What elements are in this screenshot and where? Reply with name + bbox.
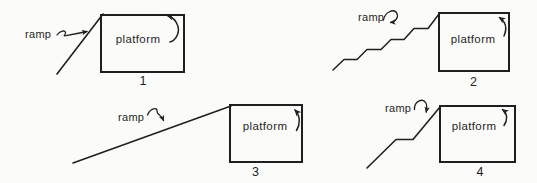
diagram-4: ramp platform 4 [367,100,515,179]
figure-canvas: ramp platform 1 ramp platform 2 ramp pla… [0,0,537,183]
platform-label: platform [452,120,497,132]
ramp-label: ramp [25,28,51,40]
ramp-pointer-curl-arrow-icon [384,11,398,23]
diagram-number: 2 [470,75,477,89]
ramp-label: ramp [358,11,384,23]
diagram-3: ramp platform 3 [73,105,302,179]
diagram-number: 3 [252,165,259,179]
rotation-arrow-icon [500,18,506,37]
ramp-line [57,14,103,74]
rotation-arrow-icon [503,110,507,126]
platform-box [440,106,515,162]
ramp-label: ramp [385,102,411,114]
diagram-1: ramp platform 1 [25,14,184,88]
platform-label: platform [451,33,496,45]
platform-label: platform [116,33,161,45]
platform-label: platform [243,120,288,132]
ramp-pointer-curl-arrow-icon [148,109,164,121]
diagram-2: ramp platform 2 [333,11,509,89]
ramp-label: ramp [118,111,144,123]
ramp-pointer-hook-arrow-icon [414,100,426,112]
platform-box [230,105,302,162]
rotation-arrow-icon [295,110,299,131]
rotation-arrow-icon [168,16,179,43]
stepped-ramp-line [333,14,439,70]
ramp-line [73,106,231,163]
diagram-number: 1 [140,74,147,88]
ramp-platform-figure: ramp platform 1 ramp platform 2 ramp pla… [0,0,537,183]
ramp-line-with-landing [367,107,440,168]
ramp-pointer-squiggle-arrow-icon [57,31,87,36]
diagram-number: 4 [477,165,484,179]
